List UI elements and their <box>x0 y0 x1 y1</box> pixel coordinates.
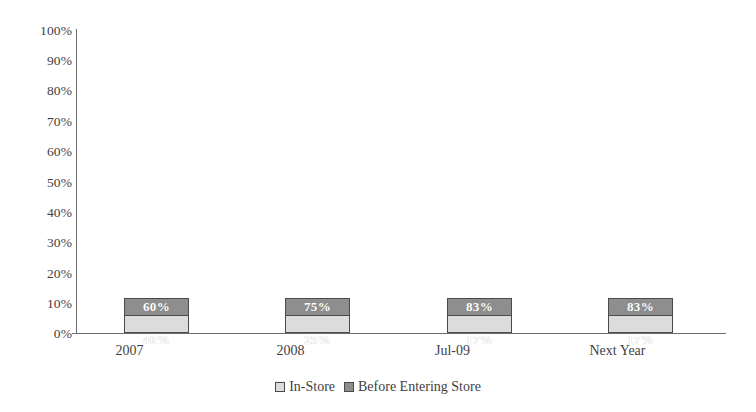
bar-segment-label: 83% <box>466 299 493 315</box>
bar-group-next-year[interactable]: 17% 83% <box>608 30 673 333</box>
x-tick-label-next-year: Next Year <box>570 343 665 359</box>
plot-area: 40% 60% 25% 75% 17% <box>77 30 725 333</box>
x-tick-label-2007: 2007 <box>92 343 167 359</box>
y-tick-80: 80% <box>4 84 72 98</box>
x-tick-label-jul-09: Jul-09 <box>415 343 490 359</box>
bar-stack: 25% 75% <box>285 298 350 333</box>
bar-stack: 17% 83% <box>447 298 512 333</box>
y-tick-70: 70% <box>4 115 72 129</box>
bar-group-2007[interactable]: 40% 60% <box>124 30 189 333</box>
y-axis-labels: 100% 90% 80% 70% 60% 50% 40% 30% 20% 10%… <box>0 0 72 412</box>
bar-segment-in-store[interactable]: 17% <box>447 315 512 333</box>
bar-segment-before-entering-store[interactable]: 83% <box>447 298 512 315</box>
legend-label: Before Entering Store <box>358 380 481 394</box>
bar-segment-in-store[interactable]: 40% <box>124 315 189 333</box>
stacked-bar-chart: 100% 90% 80% 70% 60% 50% 40% 30% 20% 10%… <box>0 0 756 412</box>
zero-tick-mark <box>72 333 81 334</box>
y-tick-90: 90% <box>4 54 72 68</box>
bar-segment-before-entering-store[interactable]: 60% <box>124 298 189 315</box>
x-tick-label-2008: 2008 <box>253 343 328 359</box>
y-tick-0: 0% <box>4 327 72 341</box>
legend-item-before-entering-store[interactable]: Before Entering Store <box>344 380 481 394</box>
y-tick-60: 60% <box>4 145 72 159</box>
bar-segment-label: 83% <box>627 299 654 315</box>
bar-segment-in-store[interactable]: 17% <box>608 315 673 333</box>
legend-swatch-icon <box>275 382 285 392</box>
bar-segment-before-entering-store[interactable]: 75% <box>285 298 350 315</box>
bar-segment-label: 75% <box>304 299 331 315</box>
y-tick-10: 10% <box>4 297 72 311</box>
bar-segment-before-entering-store[interactable]: 83% <box>608 298 673 315</box>
bar-group-jul-09[interactable]: 17% 83% <box>447 30 512 333</box>
y-tick-20: 20% <box>4 267 72 281</box>
y-tick-100: 100% <box>4 24 72 38</box>
bar-segment-in-store[interactable]: 25% <box>285 315 350 333</box>
bar-segment-label: 60% <box>143 299 170 315</box>
y-tick-50: 50% <box>4 176 72 190</box>
legend-swatch-icon <box>344 382 354 392</box>
y-tick-40: 40% <box>4 206 72 220</box>
bar-stack: 40% 60% <box>124 298 189 333</box>
legend-label: In-Store <box>289 380 335 394</box>
y-tick-30: 30% <box>4 236 72 250</box>
legend-item-in-store[interactable]: In-Store <box>275 380 335 394</box>
bar-stack: 17% 83% <box>608 298 673 333</box>
chart-legend: In-Store Before Entering Store <box>0 380 756 394</box>
bar-group-2008[interactable]: 25% 75% <box>285 30 350 333</box>
